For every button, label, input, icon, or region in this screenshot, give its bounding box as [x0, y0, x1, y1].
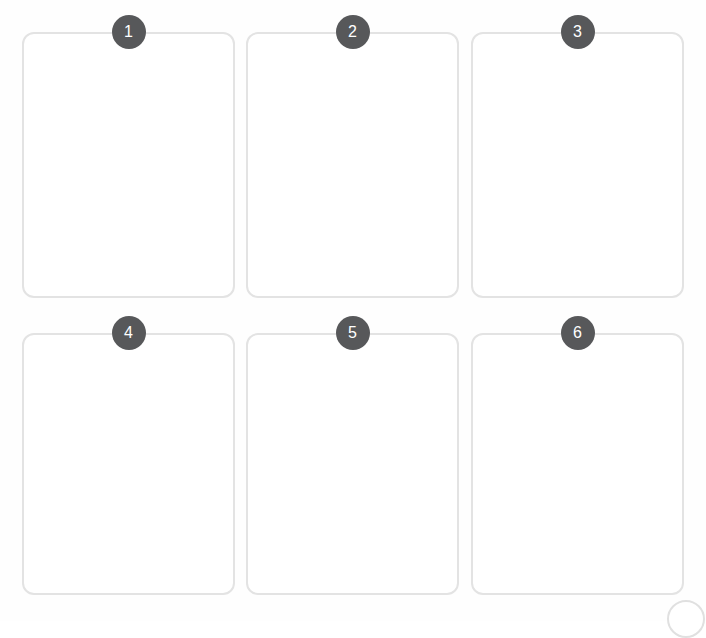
card-badge-2: 2: [336, 15, 370, 49]
card-badge-1: 1: [112, 15, 146, 49]
card-badge-5: 5: [336, 316, 370, 350]
card-frame-4[interactable]: [22, 333, 235, 595]
card-slot-6[interactable]: 6: [471, 333, 684, 595]
card-frame-5[interactable]: [246, 333, 459, 595]
card-slot-1[interactable]: 1: [22, 32, 235, 298]
circle-outline-icon[interactable]: [667, 600, 705, 638]
card-slot-2[interactable]: 2: [246, 32, 459, 298]
card-frame-6[interactable]: [471, 333, 684, 595]
card-badge-4: 4: [112, 316, 146, 350]
card-slot-5[interactable]: 5: [246, 333, 459, 595]
card-badge-3: 3: [561, 15, 595, 49]
card-frame-1[interactable]: [22, 32, 235, 298]
card-frame-2[interactable]: [246, 32, 459, 298]
card-badge-6: 6: [561, 316, 595, 350]
card-frame-3[interactable]: [471, 32, 684, 298]
corner-button-glyph: [669, 602, 703, 636]
card-slot-3[interactable]: 3: [471, 32, 684, 298]
card-slot-4[interactable]: 4: [22, 333, 235, 595]
